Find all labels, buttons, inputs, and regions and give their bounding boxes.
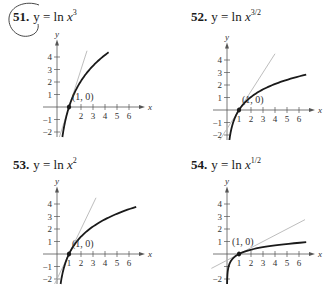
- point-label: (1, 0): [232, 236, 254, 248]
- y-tick-label: 1: [48, 90, 53, 100]
- y-axis-arrow-icon: [225, 43, 229, 49]
- y-axis-label: y: [224, 32, 229, 42]
- y-tick-label: −2: [42, 127, 52, 137]
- y-tick-label: 4: [218, 199, 223, 209]
- point-marker: [67, 252, 71, 256]
- y-tick-label: −1: [42, 115, 52, 125]
- y-axis-label: y: [54, 176, 59, 186]
- y-tick-label: −1: [42, 262, 52, 272]
- y-tick-label: 2: [218, 224, 223, 234]
- x-tick-label: 3: [261, 114, 266, 124]
- point-marker: [237, 252, 241, 256]
- y-axis-arrow-icon: [225, 187, 229, 193]
- y-tick-label: −2: [42, 274, 52, 284]
- graph-52: xy123456−2−11234(1, 0): [166, 0, 332, 150]
- y-tick-label: 4: [48, 52, 53, 62]
- x-tick-label: 5: [285, 258, 290, 268]
- x-tick-label: 5: [115, 258, 120, 268]
- y-tick-label: 1: [218, 237, 223, 247]
- x-tick-label: 4: [103, 111, 108, 121]
- graph-51: xy23456−2−11234(1, 0): [0, 0, 166, 150]
- y-tick-label: −2: [212, 274, 222, 284]
- y-tick-label: 2: [48, 224, 53, 234]
- x-tick-label: 3: [91, 111, 96, 121]
- x-axis-arrow-icon: [139, 105, 145, 109]
- y-tick-label: 3: [218, 68, 223, 78]
- x-tick-label: 6: [297, 258, 302, 268]
- y-axis-label: y: [224, 176, 229, 186]
- x-tick-label: 5: [115, 111, 120, 121]
- point-marker: [67, 105, 71, 109]
- point-marker: [237, 108, 241, 112]
- graph-54: xy123456−21234(1, 0): [166, 148, 332, 297]
- y-tick-label: 3: [48, 212, 53, 222]
- y-axis-arrow-icon: [55, 40, 59, 46]
- x-axis-label: x: [147, 249, 152, 259]
- log-curve: [229, 75, 306, 140]
- x-axis-arrow-icon: [309, 252, 315, 256]
- x-tick-label: 3: [91, 258, 96, 268]
- x-tick-label: 6: [127, 258, 132, 268]
- x-tick-label: 6: [297, 114, 302, 124]
- x-axis-label: x: [317, 105, 322, 115]
- point-label: (1, 0): [242, 94, 264, 106]
- y-axis-label: y: [54, 29, 59, 39]
- x-axis-arrow-icon: [139, 252, 145, 256]
- x-tick-label: 4: [273, 114, 278, 124]
- point-label: (1, 0): [72, 238, 94, 250]
- x-tick-label: 2: [79, 111, 84, 121]
- point-label: (1, 0): [72, 91, 94, 103]
- y-tick-label: 2: [48, 77, 53, 87]
- y-tick-label: 3: [218, 212, 223, 222]
- x-axis-label: x: [317, 249, 322, 259]
- x-tick-label: 1: [237, 114, 242, 124]
- x-tick-label: 2: [79, 258, 84, 268]
- y-tick-label: −1: [212, 118, 222, 128]
- y-tick-label: 1: [48, 237, 53, 247]
- y-tick-label: 3: [48, 65, 53, 75]
- y-tick-label: 2: [218, 80, 223, 90]
- y-tick-label: 4: [48, 199, 53, 209]
- y-tick-label: 1: [218, 93, 223, 103]
- x-axis-arrow-icon: [309, 108, 315, 112]
- x-tick-label: 3: [261, 258, 266, 268]
- x-tick-label: 2: [249, 114, 254, 124]
- y-tick-label: 4: [218, 55, 223, 65]
- x-tick-label: 2: [249, 258, 254, 268]
- x-tick-label: 5: [285, 114, 290, 124]
- x-axis-label: x: [147, 102, 152, 112]
- x-tick-label: 4: [103, 258, 108, 268]
- x-tick-label: 6: [127, 111, 132, 121]
- x-tick-label: 1: [237, 258, 242, 268]
- y-axis-arrow-icon: [55, 187, 59, 193]
- graph-53: xy123456−2−11234(1, 0): [0, 148, 166, 297]
- x-tick-label: 4: [273, 258, 278, 268]
